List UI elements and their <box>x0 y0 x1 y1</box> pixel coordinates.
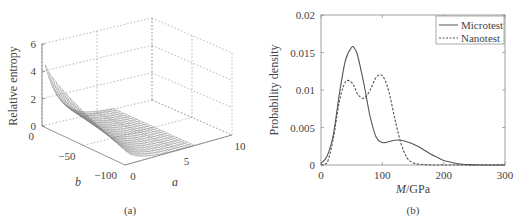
panel-b: 010020030000.0050.010.0150.02 Microtest … <box>260 0 523 224</box>
3d-axes: 02460−50−1000510 <box>29 38 247 182</box>
surface-plot: 02460−50−1000510 Relative entropy a b (a… <box>0 0 260 224</box>
line-chart: 010020030000.0050.010.0150.02 Microtest … <box>260 0 523 224</box>
y-axis-label: Probability density <box>267 45 281 136</box>
mesh-line <box>45 65 113 112</box>
x-tick-label: 0 <box>318 169 324 181</box>
grid-line <box>152 18 232 53</box>
x-axis-label: a <box>172 175 178 189</box>
mesh-line <box>79 111 161 153</box>
x-tick-label: 100 <box>374 169 391 181</box>
mesh-line <box>59 86 127 119</box>
y-tick-label: 0 <box>29 130 35 142</box>
x-axis-label: M/GPa <box>395 182 431 196</box>
x-tick-label: 300 <box>497 169 514 181</box>
y-axis-label: b <box>75 175 81 189</box>
mesh-line <box>103 110 184 148</box>
surface-mesh <box>45 65 194 156</box>
x-tick-label: 0 <box>130 170 136 182</box>
mesh-line <box>52 77 120 115</box>
z-axis-label: Relative entropy <box>6 46 20 126</box>
x-tick-label: 200 <box>435 169 452 181</box>
series-microtest <box>321 46 505 165</box>
y-tick-label: 0.015 <box>290 47 315 59</box>
y-tick-label: 0 <box>310 159 316 171</box>
grid-line <box>42 18 152 44</box>
z-tick-label: 4 <box>31 65 37 77</box>
mesh-line <box>114 109 195 146</box>
y-tick-label: 0.01 <box>296 84 315 96</box>
z-tick-label: 6 <box>31 38 37 50</box>
panel-a: 02460−50−1000510 Relative entropy a b (a… <box>0 0 260 224</box>
panel-b-label: (b) <box>407 204 420 217</box>
panel-a-label: (a) <box>124 204 137 217</box>
z-tick-label: 2 <box>31 93 37 105</box>
y-axis <box>42 126 125 165</box>
legend: Microtest Nanotest <box>436 16 504 44</box>
x-tick-label: 5 <box>184 155 190 167</box>
legend-label-microtest: Microtest <box>461 19 503 31</box>
y-tick-label: 0.005 <box>290 122 315 134</box>
y-tick-label: 0.02 <box>296 9 315 21</box>
y-tick-label: −50 <box>58 150 76 162</box>
y-tick-label: −100 <box>94 169 117 181</box>
data-series <box>321 46 505 165</box>
x-tick-label: 10 <box>235 140 247 152</box>
mesh-line <box>49 72 117 114</box>
series-nanotest <box>321 75 505 165</box>
mesh-line <box>76 105 143 128</box>
legend-label-nanotest: Nanotest <box>461 32 500 44</box>
mesh-line <box>86 112 168 152</box>
